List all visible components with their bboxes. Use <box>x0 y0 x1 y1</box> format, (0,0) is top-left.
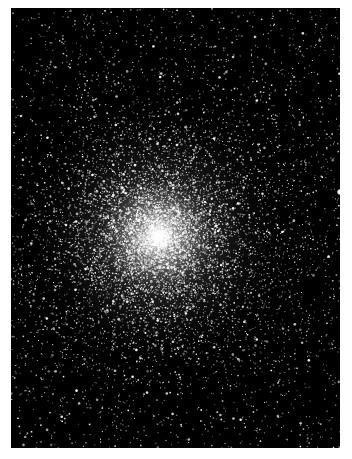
star-cluster-photo <box>11 8 340 448</box>
star-field <box>11 8 340 448</box>
bright-star-edge <box>337 189 343 195</box>
